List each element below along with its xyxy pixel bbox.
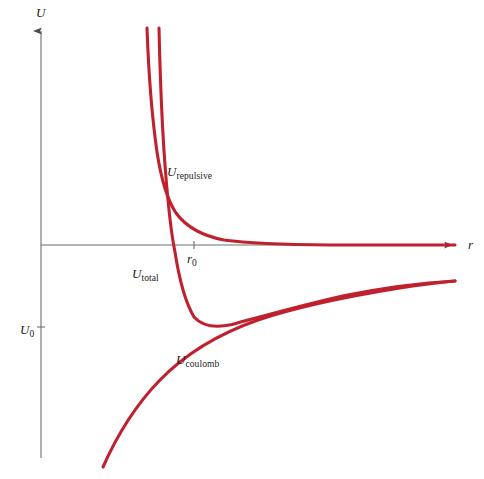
- y-axis-tick-label-u0: U0: [20, 323, 34, 337]
- curve-u-repulsive: [147, 28, 455, 245]
- curve-label-subscript: repulsive: [176, 171, 212, 181]
- y-tick-label-base: U: [20, 322, 29, 337]
- curve-label-base: U: [132, 266, 141, 281]
- y-tick-label-subscript: 0: [29, 329, 34, 339]
- curve-label-subscript: coulomb: [185, 359, 219, 369]
- x-axis-tick-label-r0: r0: [187, 252, 197, 266]
- curve-label-base: U: [176, 352, 185, 367]
- curve-label-u-repulsive: Urepulsive: [167, 165, 212, 179]
- x-tick-label-subscript: 0: [192, 258, 197, 268]
- curve-label-u-total: Utotal: [132, 267, 159, 281]
- y-axis-label: U: [36, 6, 45, 19]
- x-axis-label: r: [468, 238, 473, 251]
- curve-u-coulomb: [103, 281, 455, 467]
- curve-label-subscript: total: [141, 273, 158, 283]
- potential-energy-diagram: U r U0 r0 Urepulsive Utotal Ucoulomb: [0, 0, 484, 479]
- plot-canvas: [0, 0, 484, 479]
- curve-label-base: U: [167, 164, 176, 179]
- curve-label-u-coulomb: Ucoulomb: [176, 353, 219, 367]
